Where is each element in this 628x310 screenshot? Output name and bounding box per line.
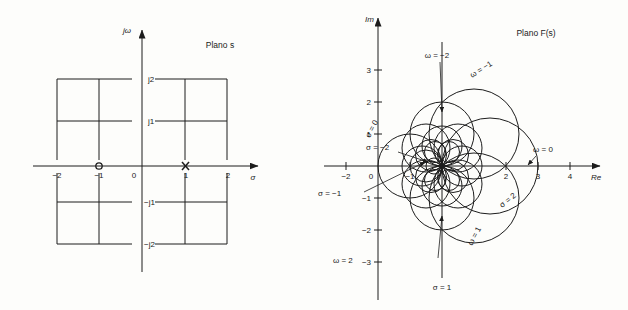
figure-background: [0, 0, 628, 310]
fs-real-axis-label: Re: [591, 173, 602, 182]
fs-ytick--3: −3: [362, 258, 372, 267]
s-ytick-j2: j2: [147, 75, 155, 84]
s-xtick--1: −1: [94, 171, 104, 180]
s-xtick-1: 1: [184, 171, 189, 180]
fs-xtick-3: 3: [536, 172, 541, 181]
s-ytick--j1: −j1: [144, 198, 155, 207]
fs-xtick-4: 4: [568, 172, 573, 181]
fs-ytick-2: 2: [367, 98, 372, 107]
annotation-sigma--1: σ = −1: [318, 189, 342, 198]
right-panel-title: Plano F(s): [516, 28, 555, 38]
fs-ytick--2: −2: [362, 226, 372, 235]
fs-ytick-3: 3: [367, 66, 372, 75]
fs-origin-label: 0: [369, 172, 374, 181]
left-panel-title: Plano s: [206, 40, 234, 50]
annotation-sigma--2: σ = −2: [366, 143, 390, 152]
s-xtick-2: 2: [226, 171, 231, 180]
fs-xtick--1: −1: [405, 172, 415, 181]
s-origin-label: 0: [132, 171, 137, 180]
fs-xtick-2: 2: [504, 172, 509, 181]
s-ytick--j2: −j2: [144, 240, 155, 249]
s-plane-jomega-axis-label: jω: [122, 26, 131, 35]
s-ytick-j1: j1: [147, 117, 155, 126]
conformal-mapping-figure: −2 −1 1 2 0 j2 j1 −j1 −j2 σ jω Plano s: [0, 0, 628, 310]
annotation-sigma-1: σ = 1: [433, 283, 452, 292]
annotation-omega--2: ω = −2: [425, 51, 450, 60]
annotation-omega-2: ω = 2: [333, 256, 353, 265]
fs-xtick--2: −2: [341, 172, 351, 181]
fs-ytick--1: −1: [362, 194, 372, 203]
fs-imag-axis-label: Im: [365, 15, 374, 24]
annotation-omega-0: ω = 0: [533, 145, 553, 154]
s-xtick--2: −2: [52, 171, 62, 180]
